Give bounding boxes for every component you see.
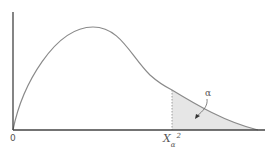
alpha-subscript: α [171,141,176,149]
origin-label: 0 [10,134,16,143]
chi-symbol: X [163,132,171,145]
critical-value-label: Xα2 [163,133,181,144]
tail-area-region [172,90,258,130]
density-curve [13,27,258,130]
squared-superscript: 2 [177,132,181,140]
tail-area-label: α [205,89,211,98]
chi-square-plot [0,0,274,156]
